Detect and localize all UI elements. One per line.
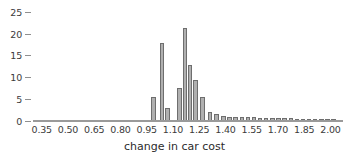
y-axis-tick: 20 xyxy=(10,28,33,40)
x-axis-tick-label: 0.50 xyxy=(58,124,78,135)
histogram-chart: 0510152025 0.350.500.650.800.951.101.251… xyxy=(0,0,349,164)
plot-area xyxy=(33,8,341,121)
y-axis-tick-mark xyxy=(25,55,31,56)
y-axis-tick-mark xyxy=(25,77,31,78)
y-axis-tick-label: 25 xyxy=(10,7,22,18)
histogram-bar xyxy=(151,97,155,121)
y-axis-tick: 15 xyxy=(10,50,33,62)
y-axis-tick-label: 5 xyxy=(16,94,22,105)
histogram-bar xyxy=(193,80,197,121)
y-axis-tick-label: 15 xyxy=(10,50,22,61)
x-axis-tick-label: 2.00 xyxy=(320,124,340,135)
x-axis-tick-label: 0.95 xyxy=(137,124,157,135)
y-axis-tick-label: 0 xyxy=(16,116,22,127)
histogram-bar xyxy=(188,65,192,122)
x-axis-tick-label: 1.70 xyxy=(268,124,288,135)
x-axis-line xyxy=(33,120,343,122)
y-axis-tick-mark xyxy=(25,34,31,35)
x-axis-tick-label: 0.80 xyxy=(110,124,130,135)
histogram-bar xyxy=(183,28,187,121)
x-axis-tick-label: 0.65 xyxy=(84,124,104,135)
x-axis-tick-label: 1.25 xyxy=(189,124,209,135)
histogram-bar xyxy=(200,97,204,121)
x-axis-tick-label: 1.10 xyxy=(163,124,183,135)
histogram-bar xyxy=(160,43,164,121)
histogram-bar xyxy=(177,88,181,121)
bars-layer xyxy=(33,8,341,121)
x-axis-tick-label: 1.55 xyxy=(242,124,262,135)
y-axis-tick: 5 xyxy=(16,93,33,105)
x-axis-tick-labels: 0.350.500.650.800.951.101.251.401.551.70… xyxy=(33,124,341,140)
y-axis-tick-mark xyxy=(25,121,31,122)
x-axis-title: change in car cost xyxy=(0,140,349,153)
x-axis-tick-label: 0.35 xyxy=(32,124,52,135)
y-axis-tick: 10 xyxy=(10,72,33,84)
y-axis-tick: 25 xyxy=(10,6,33,18)
y-axis-tick-mark xyxy=(25,12,31,13)
y-axis-tick-label: 10 xyxy=(10,72,22,83)
y-axis-tick-mark xyxy=(25,99,31,100)
y-axis-tick: 0 xyxy=(16,115,33,127)
y-axis-tick-label: 20 xyxy=(10,29,22,40)
x-axis-tick-label: 1.40 xyxy=(215,124,235,135)
y-axis: 0510152025 xyxy=(0,0,33,129)
x-axis-tick-label: 1.85 xyxy=(294,124,314,135)
